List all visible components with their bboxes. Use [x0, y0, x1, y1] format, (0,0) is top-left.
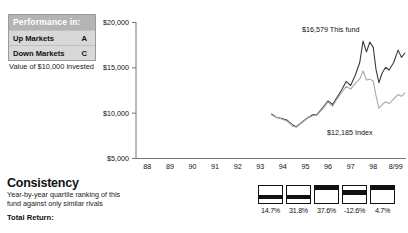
x-tick-label: 98 [369, 162, 377, 171]
quartile-box [370, 185, 395, 204]
quartile-cell: -12.6% [342, 185, 367, 215]
x-tick-label: 88 [143, 162, 151, 171]
chart-annotations: $16,579 This fund$12,185 Index [302, 25, 373, 137]
performance-box-header: Performance in: [9, 15, 95, 30]
x-tick-label: 96 [324, 162, 332, 171]
quartile-box [314, 185, 339, 204]
quartile-band-4 [315, 199, 338, 203]
quartile-box [286, 185, 311, 204]
up-markets-label: Up Markets [13, 34, 54, 43]
quartile-cell: 4.7% [370, 185, 395, 215]
annotation-this-fund: $16,579 This fund [302, 25, 359, 34]
y-tick-label: $5,000 [107, 154, 129, 163]
quartile-cell: 31.8% [286, 185, 311, 215]
annotation-index: $12,185 Index [327, 128, 373, 137]
up-markets-grade: A [82, 34, 90, 43]
x-tick-label: 94 [279, 162, 287, 171]
down-markets-grade: C [82, 49, 90, 58]
consistency-description: Year-by-year quartile ranking of this fu… [7, 191, 131, 208]
value-invested-caption: Value of $10,000 invested [9, 62, 94, 71]
performance-row-up-markets: Up Markets A [9, 30, 95, 45]
quartile-band-4 [371, 199, 394, 203]
down-markets-label: Down Markets [13, 49, 64, 58]
quartile-return-value: 4.7% [370, 206, 395, 215]
quartile-cell: 14.7% [258, 185, 283, 215]
quartile-return-value: 37.6% [314, 206, 339, 215]
quartile-band-4 [287, 199, 310, 203]
quartile-return-value: 31.8% [286, 206, 311, 215]
consistency-section: Consistency Year-by-year quartile rankin… [7, 176, 142, 222]
x-tick-label: 91 [211, 162, 219, 171]
consistency-title: Consistency [7, 176, 142, 190]
total-return-label: Total Return: [7, 213, 142, 222]
quartile-box [342, 185, 367, 204]
y-tick-label: $20,000 [103, 18, 129, 27]
x-tick-label: 95 [301, 162, 309, 171]
y-axis: $5,000$10,000$15,000$20,000 [103, 18, 136, 163]
chart-svg: $5,000$10,000$15,000$20,000 888990919293… [96, 12, 408, 182]
quartile-band-4 [343, 199, 366, 203]
performance-row-down-markets: Down Markets C [9, 45, 95, 60]
x-tick-label: 92 [234, 162, 242, 171]
x-tick-label: 97 [347, 162, 355, 171]
y-tick-label: $10,000 [103, 109, 129, 118]
x-tick-label: 89 [166, 162, 174, 171]
chart-series-lines [272, 41, 405, 127]
performance-box: Performance in: Up Markets A Down Market… [8, 14, 96, 61]
fund-performance-chart: $5,000$10,000$15,000$20,000 888990919293… [96, 12, 408, 182]
quartile-rankings: 14.7%31.8%37.6%-12.6%4.7% [258, 185, 395, 215]
y-tick-label: $15,000 [103, 63, 129, 72]
quartile-cell: 37.6% [314, 185, 339, 215]
series-line-index [272, 71, 405, 127]
quartile-band-4 [259, 199, 282, 203]
series-line-this-fund [272, 41, 405, 127]
x-tick-label: 93 [256, 162, 264, 171]
x-axis: 88899091929394959697988/99 [136, 159, 406, 172]
quartile-return-value: -12.6% [342, 206, 367, 215]
quartile-box [258, 185, 283, 204]
x-tick-label: 8/99 [389, 162, 403, 171]
x-tick-label: 90 [188, 162, 196, 171]
quartile-return-value: 14.7% [258, 206, 283, 215]
